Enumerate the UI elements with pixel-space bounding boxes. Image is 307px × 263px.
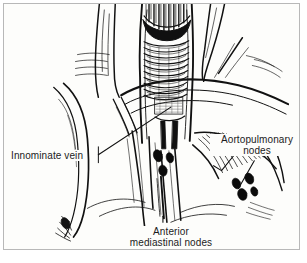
label-aortopulmonary-nodes: Aortopulmonary nodes [210, 134, 300, 156]
figure-frame: Innominate vein Aortopulmonary nodes Ant… [3, 3, 300, 250]
label-anterior-mediastinal-nodes: Anterior mediastinal nodes [116, 226, 226, 248]
label-aortopulmonary-nodes-line1: Aortopulmonary [211, 134, 300, 145]
label-aortopulmonary-nodes-line2: nodes [211, 145, 300, 156]
label-anterior-mediastinal-nodes-line1: Anterior [117, 226, 225, 237]
label-anterior-mediastinal-nodes-line2: mediastinal nodes [117, 237, 225, 248]
anatomy-illustration [4, 4, 299, 249]
label-innominate-vein: Innominate vein [10, 150, 84, 161]
figure-root: Innominate vein Aortopulmonary nodes Ant… [0, 0, 307, 263]
